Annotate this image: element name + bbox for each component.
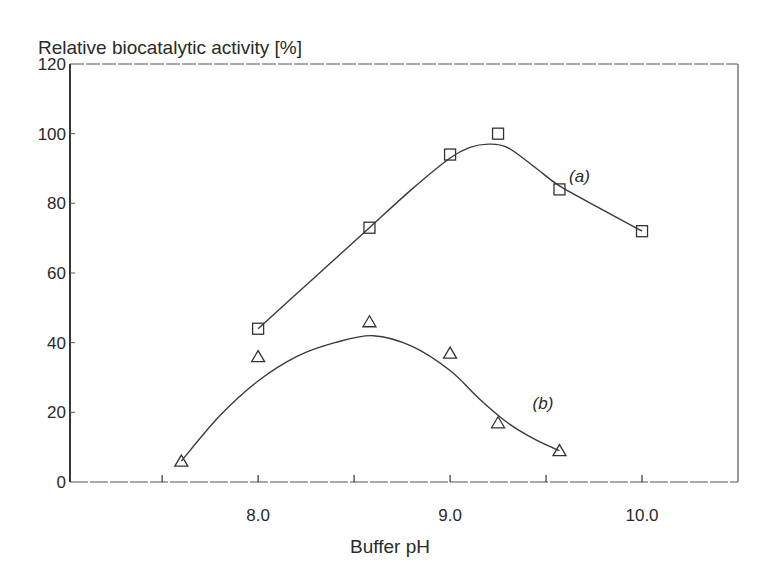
triangle-marker [252,351,265,362]
square-marker [493,128,504,139]
chart: Relative biocatalytic activity [%] 02040… [0,0,771,577]
y-tick-label: 60 [47,264,66,283]
y-tick-label: 0 [57,473,66,492]
x-tick-label: 10.0 [625,506,658,525]
y-tick-label: 40 [47,334,66,353]
series-label: (a) [569,167,590,186]
y-tick-label: 120 [38,55,66,74]
y-tick-label: 100 [38,125,66,144]
y-tick-label: 80 [47,194,66,213]
x-tick-label: 8.0 [246,506,270,525]
x-axis-title: Buffer pH [350,536,430,557]
y-tick-label: 20 [47,403,66,422]
series-labels: (a)(b) [533,167,590,412]
plot-frame [70,64,738,482]
triangle-marker [363,316,376,327]
triangle-marker [444,347,457,358]
curve-triangle [181,336,559,461]
y-axis-title: Relative biocatalytic activity [%] [38,37,302,58]
x-tick-label: 9.0 [438,506,462,525]
series-curves [181,144,642,461]
series-label: (b) [533,394,554,413]
